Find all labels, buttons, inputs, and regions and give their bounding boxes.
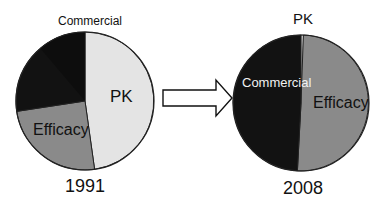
label-pk-1991: PK xyxy=(110,87,133,107)
pie-1991 xyxy=(16,32,154,170)
slice-commercial-2008 xyxy=(233,35,301,171)
label-efficacy-2008: Efficacy xyxy=(313,94,369,112)
label-commercial-2008: Commercial xyxy=(242,75,311,90)
year-2008: 2008 xyxy=(283,178,323,199)
label-commercial-1991: Commercial xyxy=(58,14,122,28)
label-pk-2008: PK xyxy=(293,10,313,27)
label-efficacy-1991: Efficacy xyxy=(33,121,89,139)
arrow-right-icon xyxy=(163,80,232,116)
year-1991: 1991 xyxy=(65,176,105,197)
